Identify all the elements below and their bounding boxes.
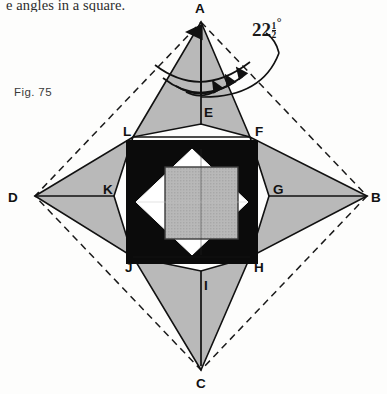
geometry-figure: A B C D E F G H I J K L [0,0,387,394]
shaded-point-top [133,22,250,137]
shaded-point-bottom [133,257,250,370]
figure-page: e angles in a square. Fig. 75 2212° [0,0,387,394]
shaded-point-left [35,137,133,257]
label-H: H [254,260,264,275]
label-C: C [196,376,206,391]
label-I: I [204,278,208,293]
label-A: A [195,1,205,16]
inner-gray-square [165,167,238,239]
label-K: K [103,182,113,197]
label-D: D [8,190,18,205]
shaded-point-right [250,137,367,257]
label-G: G [273,182,284,197]
label-J: J [125,260,133,275]
label-F: F [255,124,263,139]
label-L: L [123,124,131,139]
label-E: E [204,105,213,120]
label-B: B [371,190,381,205]
